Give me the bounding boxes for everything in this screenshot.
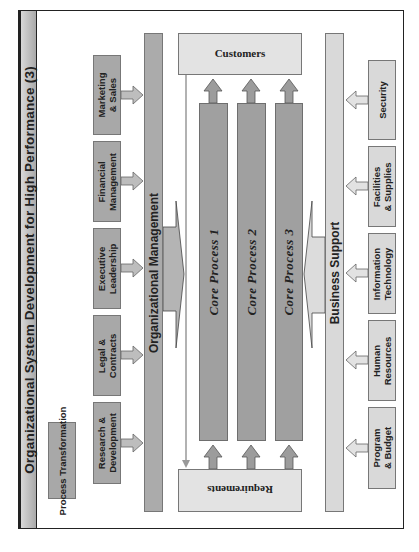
core-process-2: Core Process 2 (237, 103, 266, 441)
arrow-left-icon (346, 177, 368, 195)
unit-security: Security (368, 60, 396, 140)
arrow-left-icon (346, 91, 368, 109)
arrow-right-icon (121, 172, 143, 190)
arrow-left-icon (346, 264, 368, 282)
customers-box: Customers (178, 33, 302, 75)
organizational-management-bar: Organizational Management (144, 33, 163, 512)
customers-label: Customers (179, 47, 301, 59)
process-transformation-label: Process Transformation (57, 406, 68, 515)
arrow-left-icon (346, 351, 368, 369)
unit-information-technology: InformationTechnology (368, 233, 396, 314)
core-process-1: Core Process 1 (199, 103, 228, 441)
organizational-management-label: Organizational Management (147, 192, 161, 352)
arrow-right-icon (121, 346, 143, 364)
unit-research-development: Research &Development (93, 402, 121, 484)
requirements-label: Requirements (179, 484, 301, 496)
arrow-right-icon (121, 259, 143, 277)
unit-legal-contracts: Legal &Contracts (93, 315, 121, 396)
business-support-label: Business Support (328, 221, 342, 324)
unit-facilities-supplies: Facilities& Supplies (368, 146, 396, 227)
business-support-bar: Business Support (325, 33, 344, 512)
arrow-right-icon (121, 434, 143, 452)
unit-human-resources: HumanResources (368, 320, 396, 401)
core-process-3: Core Process 3 (275, 103, 303, 441)
requirements-box: Requirements (178, 469, 302, 512)
unit-executive-leadership: ExecutiveLeadership (93, 228, 121, 309)
unit-marketing-sales: Marketing& Sales (93, 55, 121, 135)
unit-financial-management: FinancialManagement (93, 141, 121, 222)
unit-program-budget: Program& Budget (368, 407, 396, 489)
arrow-left-icon (346, 439, 368, 457)
process-transformation-box: Process Transformation (48, 422, 76, 499)
arrow-right-icon (121, 86, 143, 104)
